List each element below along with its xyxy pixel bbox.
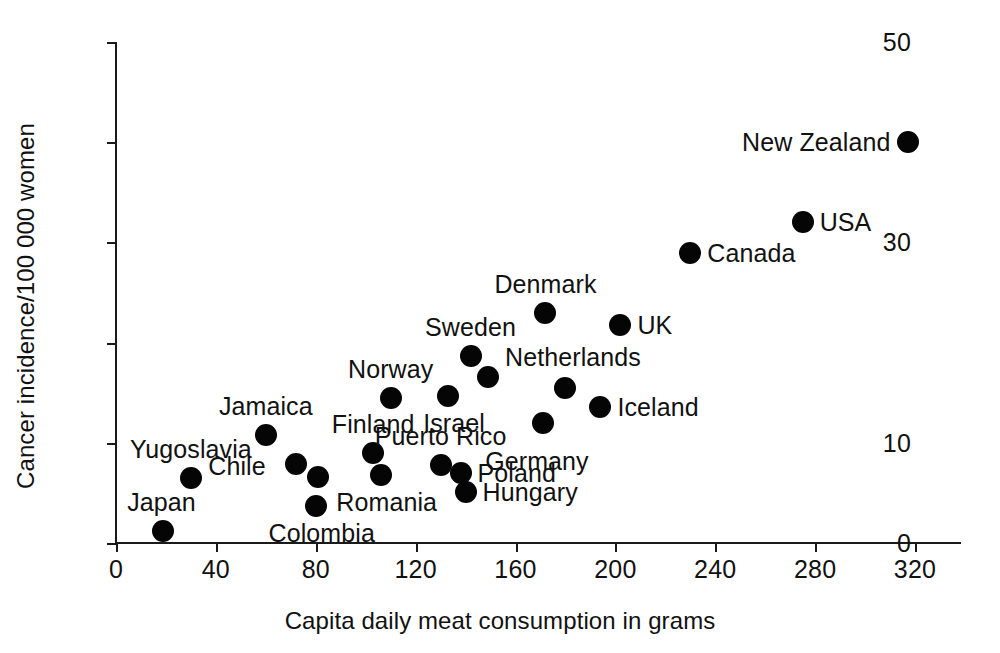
x-tick-label-160: 160 — [494, 557, 536, 582]
data-point-norway[interactable] — [380, 387, 402, 409]
x-tick-0 — [116, 543, 118, 552]
x-tick-label-0: 0 — [109, 557, 123, 582]
data-point-17[interactable] — [554, 377, 576, 399]
x-axis-title: Capita daily meat consumption in grams — [0, 607, 1000, 635]
x-tick-label-320: 320 — [894, 557, 936, 582]
plot-area: 0103050 04080120160200240280320 JapanYug… — [116, 42, 925, 543]
point-label-japan: Japan — [127, 490, 196, 515]
point-label-norway: Norway — [348, 357, 433, 382]
y-tick-label-0: 0 — [897, 531, 911, 556]
y-tick-50 — [107, 42, 116, 44]
x-tick-320 — [915, 543, 917, 552]
data-point-4[interactable] — [307, 466, 329, 488]
x-tick-120 — [416, 543, 418, 552]
x-tick-160 — [516, 543, 518, 552]
x-tick-240 — [715, 543, 717, 552]
point-label-iceland: Iceland — [617, 394, 698, 419]
data-point-hungary[interactable] — [455, 481, 477, 503]
data-point-chile[interactable] — [285, 453, 307, 475]
point-label-uk: UK — [637, 312, 672, 337]
y-tick-0 — [107, 543, 116, 545]
y-axis-title: Cancer incidence/100 000 women — [12, 16, 40, 596]
point-label-colombia: Colombia — [269, 521, 375, 546]
point-label-sweden: Sweden — [425, 315, 516, 340]
data-point-yugoslavia[interactable] — [180, 467, 202, 489]
data-point-jamaica[interactable] — [255, 424, 277, 446]
x-tick-40 — [216, 543, 218, 552]
point-label-denmark: Denmark — [494, 272, 596, 297]
point-label-jamaica: Jamaica — [219, 394, 313, 419]
data-point-iceland[interactable] — [589, 396, 611, 418]
x-tick-label-240: 240 — [694, 557, 736, 582]
data-point-denmark[interactable] — [534, 302, 556, 324]
data-point-usa[interactable] — [792, 211, 814, 233]
y-tick-30 — [107, 242, 116, 244]
point-label-new-zealand: New Zealand — [742, 130, 890, 155]
y-tick-label-50: 50 — [883, 30, 911, 55]
data-point-romania[interactable] — [370, 464, 392, 486]
data-point-colombia[interactable] — [305, 495, 327, 517]
data-point-israel[interactable] — [437, 385, 459, 407]
x-tick-label-200: 200 — [594, 557, 636, 582]
y-tick-10 — [107, 443, 116, 445]
point-label-usa: USA — [820, 210, 872, 235]
data-point-uk[interactable] — [609, 314, 631, 336]
point-label-canada: Canada — [707, 241, 795, 266]
x-tick-label-280: 280 — [794, 557, 836, 582]
y-tick-label-30: 30 — [883, 230, 911, 255]
data-point-japan[interactable] — [152, 520, 174, 542]
data-point-canada[interactable] — [679, 242, 701, 264]
y-tick-40 — [107, 142, 116, 144]
data-point-puerto-rico[interactable] — [430, 454, 452, 476]
point-label-chile: Chile — [208, 453, 265, 478]
point-label-germany: Germany — [485, 449, 589, 474]
y-tick-label-10: 10 — [883, 430, 911, 455]
point-label-israel: Israel — [423, 411, 485, 436]
point-label-netherlands: Netherlands — [505, 344, 641, 369]
x-tick-200 — [615, 543, 617, 552]
data-point-netherlands[interactable] — [477, 366, 499, 388]
y-tick-20 — [107, 343, 116, 345]
data-point-germany[interactable] — [532, 412, 554, 434]
data-point-sweden[interactable] — [460, 345, 482, 367]
point-label-hungary: Hungary — [483, 479, 578, 504]
x-tick-280 — [815, 543, 817, 552]
point-label-romania: Romania — [336, 490, 437, 515]
x-tick-label-120: 120 — [394, 557, 436, 582]
scatter-plot-figure: Cancer incidence/100 000 women Capita da… — [0, 0, 1000, 653]
x-tick-label-40: 40 — [202, 557, 230, 582]
x-tick-label-80: 80 — [302, 557, 330, 582]
data-point-new-zealand[interactable] — [897, 131, 919, 153]
